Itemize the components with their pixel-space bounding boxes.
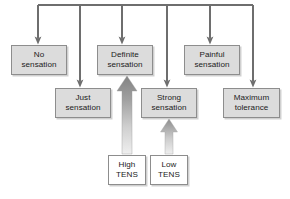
node-maximum-tolerance: Maximum tolerance — [223, 88, 280, 118]
high-tens-arrow-icon — [117, 76, 137, 154]
node-label-line: TENS — [158, 170, 180, 180]
node-label-line: Painful — [199, 50, 224, 60]
node-label-line: High — [119, 160, 136, 170]
node-label-line: sensation — [194, 60, 229, 70]
node-label-line: sensation — [151, 103, 186, 113]
node-label-line: Strong — [157, 93, 181, 103]
connector-bus-to-definite-sensation — [119, 5, 126, 45]
node-label-line: Maximum — [234, 93, 269, 103]
node-label-line: tolerance — [235, 103, 269, 113]
node-painful-sensation: Painful sensation — [184, 45, 240, 75]
node-just-sensation: Just sensation — [55, 88, 111, 118]
figure-canvas: No sensation Just sensation Definite sen… — [0, 0, 290, 199]
figure-caption — [0, 188, 290, 199]
node-label-line: sensation — [65, 103, 100, 113]
connector-bus-to-maximum-tolerance — [250, 5, 257, 88]
connector-bus-to-no-sensation — [35, 5, 42, 45]
node-label-line: sensation — [21, 60, 56, 70]
node-label-line: sensation — [107, 60, 142, 70]
node-definite-sensation: Definite sensation — [97, 45, 153, 75]
node-label-line: Low — [162, 160, 177, 170]
node-high-tens: High TENS — [108, 155, 146, 185]
node-label-line: TENS — [116, 170, 138, 180]
node-no-sensation: No sensation — [11, 45, 67, 75]
connector-bus-to-strong-sensation — [164, 5, 171, 88]
connector-bus-to-just-sensation — [77, 5, 84, 88]
node-label-line: Just — [75, 93, 90, 103]
connector-bus-to-painful-sensation — [207, 5, 214, 45]
node-label-line: Definite — [111, 50, 139, 60]
node-strong-sensation: Strong sensation — [141, 88, 197, 118]
low-tens-arrow-icon — [161, 119, 178, 154]
node-label-line: No — [34, 50, 44, 60]
node-low-tens: Low TENS — [150, 155, 188, 185]
